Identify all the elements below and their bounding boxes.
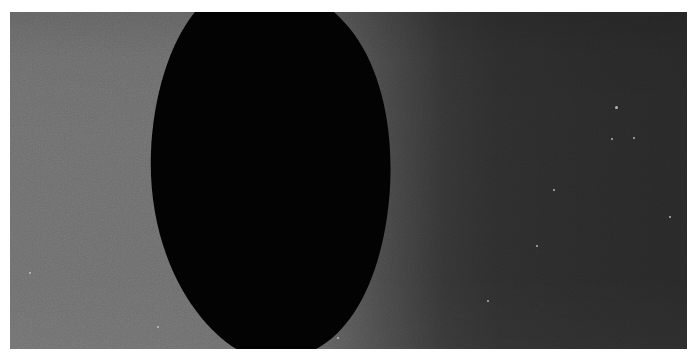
background-gradient	[10, 12, 687, 349]
image-canvas	[0, 0, 697, 359]
photo-frame	[10, 12, 687, 349]
